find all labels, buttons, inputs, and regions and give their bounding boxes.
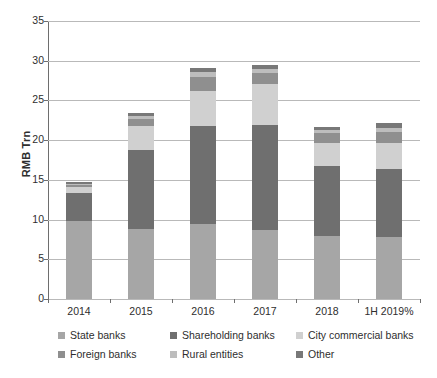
legend-label: Foreign banks xyxy=(70,348,137,360)
bar-segment[interactable] xyxy=(128,229,154,299)
legend-label: City commercial banks xyxy=(308,329,414,341)
y-tick-mark xyxy=(44,100,48,101)
plot-area xyxy=(48,21,420,299)
bar-group[interactable] xyxy=(190,21,216,299)
legend-swatch xyxy=(170,332,177,339)
bar-segment[interactable] xyxy=(314,127,340,130)
bar-segment[interactable] xyxy=(66,184,92,186)
bar-segment[interactable] xyxy=(376,169,402,237)
bar-segment[interactable] xyxy=(66,221,92,299)
x-tick-mark xyxy=(234,299,235,303)
bar-segment[interactable] xyxy=(314,133,340,143)
legend-item[interactable]: Shareholding banks xyxy=(170,329,275,341)
x-tick-mark xyxy=(420,299,421,303)
y-tick-mark xyxy=(44,299,48,300)
bar-segment[interactable] xyxy=(190,68,216,72)
legend-item[interactable]: Other xyxy=(296,348,334,360)
bar-segment[interactable] xyxy=(376,143,402,169)
x-tick-mark xyxy=(110,299,111,303)
y-tick-label: 10 xyxy=(18,213,44,225)
legend-label: Rural entities xyxy=(182,348,243,360)
y-tick-mark xyxy=(44,21,48,22)
bar-segment[interactable] xyxy=(252,230,278,299)
bar-segment[interactable] xyxy=(190,91,216,126)
y-tick-mark xyxy=(44,220,48,221)
grid-line xyxy=(48,100,420,101)
bar-segment[interactable] xyxy=(190,224,216,299)
grid-line xyxy=(48,180,420,181)
y-tick-label: 0 xyxy=(18,292,44,304)
bar-segment[interactable] xyxy=(66,185,92,187)
y-tick-label: 15 xyxy=(18,173,44,185)
grid-line xyxy=(48,259,420,260)
x-tick-label: 1H 2019% xyxy=(349,305,429,317)
bar-segment[interactable] xyxy=(376,132,402,142)
grid-line xyxy=(48,140,420,141)
bar-segment[interactable] xyxy=(252,73,278,83)
stacked-bar-chart: RMB Trn 05101520253035 20142015201620172… xyxy=(0,0,437,378)
grid-line xyxy=(48,21,420,22)
y-tick-mark xyxy=(44,180,48,181)
y-tick-label: 5 xyxy=(18,252,44,264)
y-tick-label: 25 xyxy=(18,93,44,105)
legend-label: Shareholding banks xyxy=(182,329,275,341)
y-tick-mark xyxy=(44,61,48,62)
bar-segment[interactable] xyxy=(66,193,92,222)
legend-label: Other xyxy=(308,348,334,360)
bar-segment[interactable] xyxy=(314,130,340,133)
legend-swatch xyxy=(296,332,303,339)
bar-group[interactable] xyxy=(376,21,402,299)
bar-group[interactable] xyxy=(314,21,340,299)
bar-segment[interactable] xyxy=(128,113,154,115)
y-axis-ticks: 05101520253035 xyxy=(0,0,44,320)
bar-segment[interactable] xyxy=(252,125,278,230)
y-tick-label: 35 xyxy=(18,14,44,26)
legend-label: State banks xyxy=(70,329,125,341)
legend-swatch xyxy=(58,332,65,339)
bar-segment[interactable] xyxy=(314,236,340,299)
bar-segment[interactable] xyxy=(190,126,216,224)
bar-segment[interactable] xyxy=(314,166,340,237)
x-tick-mark xyxy=(48,299,49,303)
bar-segment[interactable] xyxy=(252,65,278,69)
bar-segment[interactable] xyxy=(128,116,154,119)
chart-legend: State banksShareholding banksCity commer… xyxy=(58,329,428,369)
bar-group[interactable] xyxy=(66,21,92,299)
legend-swatch xyxy=(296,351,303,358)
bar-segment[interactable] xyxy=(128,119,154,126)
bar-group[interactable] xyxy=(128,21,154,299)
x-tick-mark xyxy=(172,299,173,303)
y-tick-mark xyxy=(44,259,48,260)
bar-segment[interactable] xyxy=(376,237,402,299)
legend-item[interactable]: State banks xyxy=(58,329,125,341)
bar-segment[interactable] xyxy=(190,72,216,78)
x-tick-mark xyxy=(358,299,359,303)
y-tick-label: 20 xyxy=(18,133,44,145)
legend-item[interactable]: Rural entities xyxy=(170,348,243,360)
bar-segment[interactable] xyxy=(128,126,154,150)
bar-segment[interactable] xyxy=(66,182,92,184)
bar-segment[interactable] xyxy=(252,69,278,74)
bar-segment[interactable] xyxy=(128,150,154,229)
grid-line xyxy=(48,61,420,62)
bar-segment[interactable] xyxy=(376,128,402,132)
bar-segment[interactable] xyxy=(252,84,278,125)
grid-line xyxy=(48,220,420,221)
bar-segment[interactable] xyxy=(314,143,340,166)
x-tick-mark xyxy=(296,299,297,303)
legend-swatch xyxy=(58,351,65,358)
legend-item[interactable]: Foreign banks xyxy=(58,348,137,360)
bar-segment[interactable] xyxy=(376,123,402,128)
legend-swatch xyxy=(170,351,177,358)
y-tick-mark xyxy=(44,140,48,141)
bar-group[interactable] xyxy=(252,21,278,299)
bar-segment[interactable] xyxy=(66,187,92,193)
legend-item[interactable]: City commercial banks xyxy=(296,329,414,341)
y-tick-label: 30 xyxy=(18,54,44,66)
bar-segment[interactable] xyxy=(190,77,216,91)
